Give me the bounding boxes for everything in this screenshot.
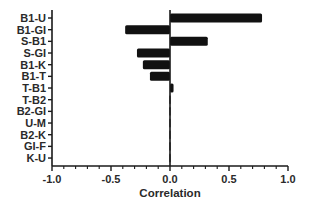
x-tick-label: 1.0 bbox=[280, 173, 295, 185]
bar-b1-k bbox=[143, 60, 170, 69]
category-label: T-B2 bbox=[22, 94, 46, 106]
category-label: S-B1 bbox=[21, 35, 46, 47]
category-label: S-GI bbox=[23, 47, 46, 59]
x-tick-label: 0.5 bbox=[221, 173, 236, 185]
category-label: U-M bbox=[25, 117, 46, 129]
y-axis: B1-UB1-GIS-B1S-GIB1-KB1-TT-B1T-B2B2-GIU-… bbox=[17, 10, 52, 166]
category-label: B2-GI bbox=[17, 105, 46, 117]
category-label: B1-K bbox=[20, 59, 46, 71]
category-label: B1-GI bbox=[17, 24, 46, 36]
bar-b1-gi bbox=[125, 25, 170, 34]
bar-b1-t bbox=[150, 72, 170, 81]
x-axis-title: Correlation bbox=[139, 187, 200, 199]
category-label: K-U bbox=[26, 152, 46, 164]
x-tick-label: 0.0 bbox=[162, 173, 177, 185]
bars-group bbox=[125, 14, 262, 163]
bar-s-gi bbox=[137, 49, 170, 58]
bar-b1-u bbox=[170, 14, 262, 23]
x-tick-label: -0.5 bbox=[102, 173, 121, 185]
x-tick-label: -1.0 bbox=[43, 173, 62, 185]
category-label: B1-T bbox=[22, 70, 47, 82]
category-label: B1-U bbox=[20, 12, 46, 24]
bar-s-b1 bbox=[170, 37, 208, 46]
correlation-bar-chart: B1-UB1-GIS-B1S-GIB1-KB1-TT-B1T-B2B2-GIU-… bbox=[0, 0, 309, 213]
category-label: T-B1 bbox=[22, 82, 46, 94]
category-label: B2-K bbox=[20, 129, 46, 141]
x-axis: -1.0-0.50.00.51.0 bbox=[43, 166, 296, 185]
category-label: GI-F bbox=[24, 140, 46, 152]
